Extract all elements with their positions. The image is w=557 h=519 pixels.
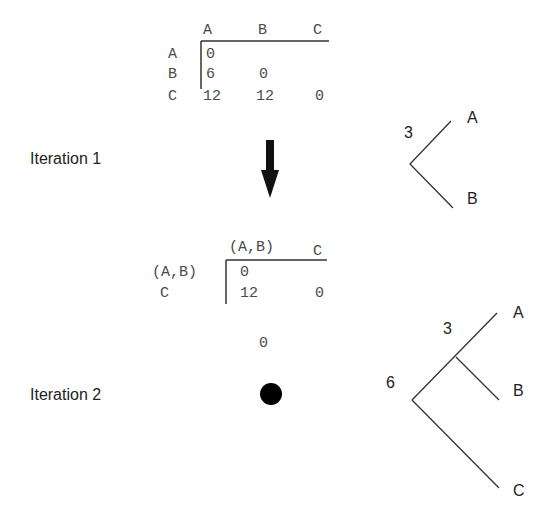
tree2-root-height: 6	[386, 374, 395, 392]
matrix1-cell: 12	[256, 88, 274, 105]
matrix1-col-header: B	[258, 22, 267, 39]
matrix2-row-header: C	[160, 285, 169, 302]
matrix1-col-header: A	[203, 22, 212, 39]
down-arrow-icon	[261, 170, 279, 198]
tree2-branch-a	[412, 313, 497, 400]
matrix1-row-header: A	[168, 46, 177, 63]
matrix1-cell: 0	[259, 66, 268, 83]
matrix1-cell: 0	[315, 88, 324, 105]
iteration-2-label: Iteration 2	[30, 386, 101, 404]
iteration-1-label: Iteration 1	[30, 150, 101, 168]
matrix1-row-header: C	[168, 88, 177, 105]
tree2-inner-height: 3	[443, 320, 452, 338]
matrix1-cell: 6	[206, 66, 215, 83]
diagram-lines	[0, 0, 557, 519]
tree1-leaf-b: B	[467, 190, 478, 208]
matrix2-cell: 0	[315, 285, 324, 302]
matrix1-row-header: B	[168, 66, 177, 83]
matrix2-cell: 12	[240, 285, 258, 302]
tree2-branch-c	[412, 400, 499, 488]
single-value-cell: 0	[259, 335, 268, 352]
matrix2-row-header: (A,B)	[152, 264, 197, 281]
tree1-node-height: 3	[404, 124, 413, 142]
tree1-leaf-a: A	[467, 109, 478, 127]
merged-node-dot	[260, 383, 282, 405]
tree2-leaf-c: C	[513, 482, 525, 500]
tree2-leaf-b: B	[513, 382, 524, 400]
matrix1-cell: 0	[206, 46, 215, 63]
matrix1-cell: 12	[203, 88, 221, 105]
tree2-branch-b	[456, 357, 499, 400]
tree2-leaf-a: A	[513, 304, 524, 322]
matrix2-col-header: C	[313, 243, 322, 260]
matrix2-cell: 0	[240, 264, 249, 281]
matrix2-col-header: (A,B)	[229, 239, 274, 256]
tree1-branches	[410, 121, 453, 208]
arrow-shaft	[266, 140, 274, 172]
matrix1-col-header: C	[313, 22, 322, 39]
